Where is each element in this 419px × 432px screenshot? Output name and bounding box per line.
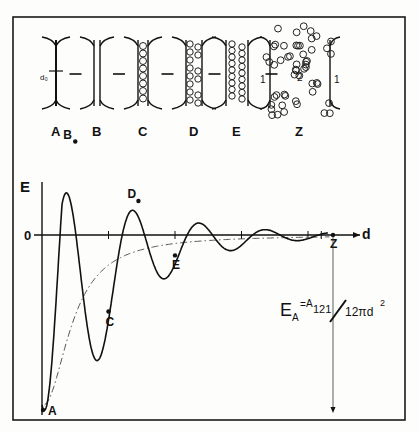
d-axis-label: d <box>362 226 371 242</box>
point-c <box>106 309 110 313</box>
molecule-icon <box>309 88 316 95</box>
stage-b: B <box>80 37 114 139</box>
molecule-icon <box>239 83 245 89</box>
molecule-icon <box>272 41 279 48</box>
molecule-icon <box>140 95 147 102</box>
stage-label: D <box>189 124 198 139</box>
formula-fraction-slash <box>330 300 346 322</box>
molecule-icon <box>195 92 201 98</box>
molecule-icon <box>195 68 201 74</box>
vdw-curve <box>45 237 330 405</box>
molecule-icon <box>271 94 278 101</box>
d-axis-arrowhead <box>353 232 360 238</box>
stage-label: B <box>92 124 101 139</box>
molecule-icon <box>300 23 307 30</box>
molecule-icon <box>279 102 286 109</box>
molecule-icon <box>239 96 245 102</box>
molecule-icon <box>239 70 245 76</box>
molecule-icon <box>281 109 288 116</box>
molecule-icon <box>140 80 147 87</box>
formula-lhs: E <box>280 300 292 320</box>
molecule-icon <box>277 57 284 64</box>
origin-label: 0 <box>24 228 31 243</box>
molecule-icon <box>187 81 193 87</box>
molecule-icon <box>195 52 201 58</box>
z-drop-arrowhead <box>331 407 336 413</box>
molecule-icon <box>275 25 282 32</box>
molecule-icon <box>293 29 300 36</box>
molecule-icon <box>187 41 193 47</box>
d0-label: d₀ <box>40 73 48 82</box>
formula-den-sup: 2 <box>380 298 385 308</box>
point-b <box>73 139 77 143</box>
molecule-icon <box>187 89 193 95</box>
formula-den: 12πd <box>345 305 373 319</box>
molecule-icon <box>229 47 235 53</box>
diagram: d₀ABCDE121Z E 0 d ABCDEZ E A = A 121 12π… <box>0 0 419 432</box>
molecule-icon <box>195 44 201 50</box>
molecule-icon <box>187 97 193 103</box>
formula-num: A <box>306 298 313 309</box>
stage-c: C <box>124 37 162 139</box>
stages-row: d₀ABCDE121Z <box>40 23 340 139</box>
point-label-z: Z <box>330 237 337 251</box>
formula-lhs-sub: A <box>292 312 299 323</box>
molecule-icon <box>239 63 245 69</box>
stage-label: C <box>138 124 148 139</box>
stage-e: E <box>212 37 262 139</box>
region-label-1-right: 1 <box>334 74 340 85</box>
molecule-icon <box>229 93 235 99</box>
molecule-icon <box>187 49 193 55</box>
molecule-icon <box>239 76 245 82</box>
energy-graph: E 0 d ABCDEZ E A = A 121 12πd 2 <box>20 128 385 419</box>
stage-z: 121Z <box>260 23 340 139</box>
point-e <box>173 253 177 257</box>
molecule-icon <box>281 42 288 49</box>
frame-border <box>13 17 405 420</box>
molecule-icon <box>229 67 235 73</box>
molecule-icon <box>140 73 147 80</box>
molecule-icon <box>187 73 193 79</box>
point-label-e: E <box>172 258 180 272</box>
formula-num-sub: 121 <box>313 303 331 315</box>
molecule-icon <box>187 57 193 63</box>
stage-label: A <box>51 124 61 139</box>
e-axis-label: E <box>20 178 30 195</box>
stage-a: d₀A <box>40 37 70 139</box>
molecule-icon <box>195 100 201 106</box>
molecule-icon <box>308 46 315 53</box>
formula: E A = A 121 12πd 2 <box>280 298 385 323</box>
point-label-c: C <box>106 315 115 329</box>
point-label-b: B <box>63 128 72 142</box>
molecule-icon <box>229 54 235 60</box>
molecule-icon <box>239 89 245 95</box>
molecule-icon <box>140 65 147 72</box>
molecule-icon <box>229 60 235 66</box>
region-label-2: 2 <box>297 72 303 83</box>
molecule-icon <box>229 73 235 79</box>
point-a <box>41 408 45 412</box>
molecule-icon <box>140 50 147 57</box>
molecule-icon <box>140 43 147 50</box>
molecule-icon <box>187 65 193 71</box>
point-label-d: D <box>127 187 136 201</box>
point-d <box>136 199 140 203</box>
region-label-1-left: 1 <box>260 74 266 85</box>
molecule-icon <box>239 50 245 56</box>
molecule-icon <box>239 57 245 63</box>
molecule-icon <box>271 61 278 68</box>
molecule-icon <box>140 88 147 95</box>
molecule-icon <box>307 28 314 35</box>
molecule-icon <box>229 86 235 92</box>
molecule-icon <box>300 51 307 58</box>
molecule-icon <box>140 58 147 65</box>
molecule-icon <box>229 80 235 86</box>
stage-label: E <box>232 124 241 139</box>
molecule-icon <box>273 92 280 99</box>
point-label-a: A <box>48 404 57 418</box>
stage-d: D <box>172 37 216 139</box>
molecule-icon <box>239 44 245 50</box>
molecule-icon <box>195 76 201 82</box>
molecule-icon <box>229 41 235 47</box>
stage-label: Z <box>295 124 303 139</box>
